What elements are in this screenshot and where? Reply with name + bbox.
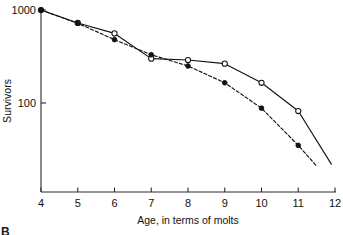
data-point-open-circle-series (259, 80, 264, 85)
data-point-filled-circle-series (39, 8, 44, 13)
figure-panel: 1001000 456789101112 Age, in terms of mo… (0, 0, 343, 235)
x-tick-label: 4 (38, 197, 44, 209)
data-point-filled-circle-series (222, 80, 227, 85)
y-tick-label: 1000 (12, 4, 36, 16)
data-series-layer (38, 7, 331, 166)
y-tick-label: 100 (18, 97, 36, 109)
x-axis-ticks: 456789101112 (38, 188, 341, 210)
data-point-open-circle-series (185, 57, 190, 62)
x-tick-label: 7 (148, 197, 154, 209)
series-line-open-circle-series (41, 10, 331, 164)
data-point-filled-circle-series (149, 52, 154, 57)
panel-label: B (1, 226, 10, 235)
data-point-open-circle-series (296, 108, 301, 113)
x-tick-label: 12 (329, 197, 341, 209)
data-point-filled-circle-series (186, 64, 191, 69)
survivorship-line-chart: 1001000 456789101112 Age, in terms of mo… (0, 0, 343, 235)
data-point-filled-circle-series (112, 37, 117, 42)
x-tick-label: 6 (111, 197, 117, 209)
y-axis-title: Survivors (1, 79, 13, 123)
x-tick-label: 5 (75, 197, 81, 209)
x-tick-label: 9 (222, 197, 228, 209)
x-axis-title: Age, in terms of molts (137, 214, 239, 226)
series-line-filled-circle-series (41, 10, 317, 166)
x-tick-label: 11 (293, 197, 304, 209)
data-point-filled-circle-series (296, 143, 301, 148)
data-point-open-circle-series (112, 31, 117, 36)
data-point-filled-circle-series (75, 21, 80, 26)
x-tick-label: 10 (255, 197, 267, 209)
data-point-filled-circle-series (259, 106, 264, 111)
x-tick-label: 8 (185, 197, 191, 209)
data-point-open-circle-series (222, 61, 227, 66)
